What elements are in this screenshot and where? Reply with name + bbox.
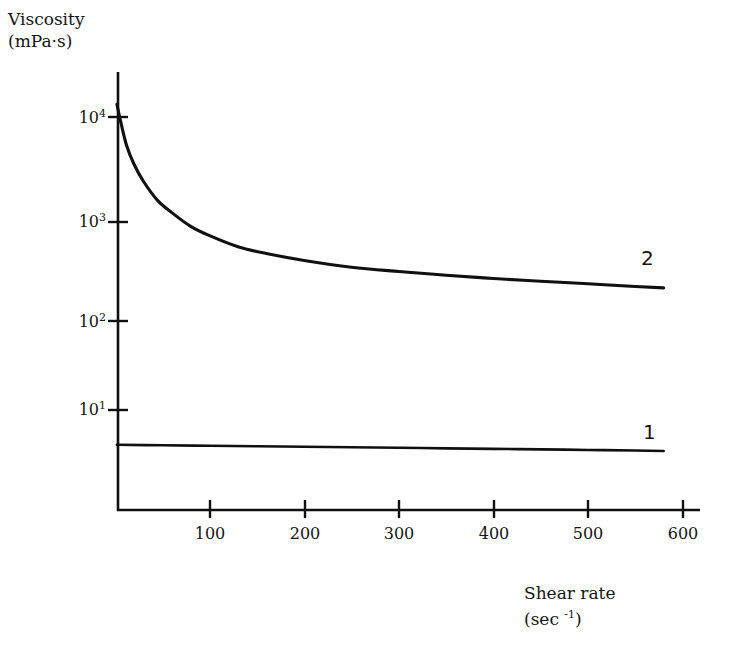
viscosity-shear-rate-chart: Viscosity (mPa·s) Shear rate (sec -1) 10…	[0, 0, 751, 666]
series-curve-2	[117, 104, 664, 288]
series-curve-1	[117, 445, 664, 451]
plot-area	[0, 0, 751, 666]
